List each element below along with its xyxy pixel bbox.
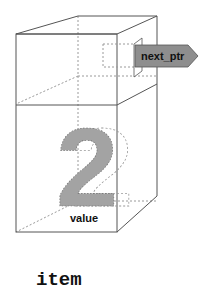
value-label: value: [70, 212, 98, 224]
pointer-slot: [103, 44, 137, 67]
item-box-diagram: next_ptr 2 2 value item: [0, 0, 208, 303]
next-ptr-arrow: next_ptr: [135, 45, 198, 67]
next-ptr-label: next_ptr: [141, 50, 185, 62]
item-title: item: [36, 269, 82, 291]
